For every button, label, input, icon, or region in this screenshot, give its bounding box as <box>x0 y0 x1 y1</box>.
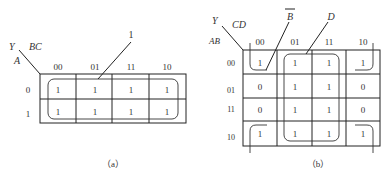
kmap-b-row-header: 11 <box>227 105 235 114</box>
kmap-b-col-header: 00 <box>256 37 266 47</box>
kmap-a-cell: 1 <box>93 107 98 117</box>
kmap-a-row-header: 1 <box>26 109 31 119</box>
kmap-a-row-var: A <box>13 55 21 66</box>
kmap-a-cell: 1 <box>165 85 170 95</box>
kmap-a: Y BC A 00 01 11 10 0 1 1 1 1 1 1 1 1 1 1… <box>9 29 186 169</box>
kmap-b-cell: 1 <box>327 129 332 139</box>
kmap-b-row-header: 00 <box>227 59 235 68</box>
kmap-b-loop-d-label: D <box>326 11 335 22</box>
karnaugh-maps-figure: Y BC A 00 01 11 10 0 1 1 1 1 1 1 1 1 1 1… <box>0 0 389 178</box>
kmap-a-cell: 1 <box>93 85 98 95</box>
kmap-b-cell: 1 <box>258 129 263 139</box>
kmap-b-output-label: Y <box>212 15 219 26</box>
kmap-b-cell: 1 <box>293 58 298 68</box>
kmap-a-caption: （a） <box>102 159 124 169</box>
kmap-a-col-var: BC <box>29 41 42 52</box>
kmap-b-loop-bbar-label: B <box>287 11 293 22</box>
kmap-a-col-header: 00 <box>54 62 64 72</box>
kmap-a-corner-diagonal <box>19 50 40 74</box>
kmap-b-row-var: AB <box>208 36 220 46</box>
kmap-b-cell: 1 <box>361 129 366 139</box>
kmap-b-cell: 0 <box>361 105 366 115</box>
kmap-b-col-header: 10 <box>359 37 369 47</box>
kmap-a-loop-leader <box>98 42 131 79</box>
kmap-b-cell: 1 <box>293 105 298 115</box>
kmap-a-col-header: 10 <box>163 62 173 72</box>
kmap-b-row-header: 10 <box>227 133 235 142</box>
kmap-b: Y CD AB 00 01 11 10 00 01 11 10 1 1 1 1 … <box>208 9 380 169</box>
kmap-a-row-header: 0 <box>26 85 31 95</box>
kmap-b-cell: 0 <box>361 82 366 92</box>
kmap-b-caption: （b） <box>307 159 330 169</box>
kmap-a-cell: 1 <box>165 107 170 117</box>
kmap-b-col-header: 11 <box>325 37 334 47</box>
kmap-b-cell: 0 <box>258 82 263 92</box>
kmap-b-cell: 1 <box>258 58 263 68</box>
kmap-b-cell: 1 <box>327 82 332 92</box>
kmap-b-cell: 1 <box>361 58 366 68</box>
kmap-a-col-header: 01 <box>91 62 100 72</box>
kmap-b-col-header: 01 <box>291 37 300 47</box>
kmap-b-cell: 0 <box>258 105 263 115</box>
kmap-b-cell: 1 <box>327 105 332 115</box>
kmap-b-col-var: CD <box>232 19 247 30</box>
kmap-a-cell: 1 <box>56 107 61 117</box>
kmap-a-col-header: 11 <box>127 62 136 72</box>
kmap-b-cell: 1 <box>293 129 298 139</box>
kmap-a-cell: 1 <box>129 107 134 117</box>
kmap-a-cell: 1 <box>129 85 134 95</box>
kmap-b-row-header: 01 <box>227 86 235 95</box>
kmap-b-cell: 1 <box>293 82 298 92</box>
kmap-b-cell: 1 <box>327 58 332 68</box>
kmap-a-loop-label: 1 <box>129 29 134 40</box>
kmap-a-output-label: Y <box>9 41 16 52</box>
kmap-a-cell: 1 <box>56 85 61 95</box>
